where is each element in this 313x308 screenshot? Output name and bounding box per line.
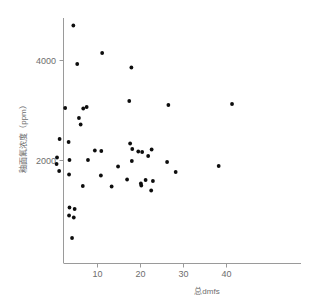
data-point (58, 137, 62, 141)
data-point (99, 149, 103, 153)
x-tick-label-40: 40 (221, 269, 231, 279)
data-point (165, 160, 169, 164)
y-axis-title: 釉面氟浓度（ppm） (18, 101, 28, 173)
x-axis-title: 总dmfs (194, 286, 219, 296)
data-points-group (55, 24, 234, 240)
data-point (100, 51, 104, 55)
data-point (151, 179, 155, 183)
data-point (130, 147, 134, 151)
data-point (79, 123, 83, 127)
y-tick-label-4000: 4000 (36, 56, 56, 66)
data-point (55, 156, 59, 160)
data-point (230, 102, 234, 106)
data-point (149, 189, 153, 193)
data-point (116, 165, 120, 169)
data-point (81, 107, 85, 111)
data-point (70, 236, 74, 240)
data-point (125, 178, 129, 182)
data-point (144, 178, 148, 182)
data-point (85, 105, 89, 109)
data-point (73, 207, 77, 211)
data-point (55, 162, 59, 166)
scatter-plot-figure: 4000 2000 10 20 30 40 总dmfs 釉面氟浓度（ppm） (0, 0, 313, 308)
data-point (128, 142, 132, 146)
data-point (81, 184, 85, 188)
data-point (71, 24, 75, 28)
data-point (130, 66, 134, 70)
data-point (136, 150, 140, 154)
x-tick-label-30: 30 (178, 269, 188, 279)
x-tick-label-10: 10 (92, 269, 102, 279)
x-axis-ticks: 10 20 30 40 (92, 264, 231, 280)
data-point (130, 159, 134, 163)
data-point (67, 173, 71, 177)
data-point (57, 169, 61, 173)
data-point (68, 206, 72, 210)
scatter-plot-canvas: 4000 2000 10 20 30 40 总dmfs 釉面氟浓度（ppm） (0, 0, 313, 308)
data-point (217, 164, 221, 168)
data-point (146, 154, 150, 158)
data-point (75, 62, 79, 66)
data-point (86, 158, 90, 162)
data-point (166, 103, 170, 107)
data-point (67, 140, 71, 144)
data-point (127, 99, 131, 103)
x-tick-label-20: 20 (135, 269, 145, 279)
data-point (67, 214, 71, 218)
data-point (93, 149, 97, 153)
data-point (72, 216, 76, 220)
y-axis-ticks: 4000 2000 (36, 56, 64, 166)
data-point (68, 158, 72, 162)
data-point (140, 150, 144, 154)
data-point (139, 184, 143, 188)
data-point (77, 116, 81, 120)
data-point (63, 106, 67, 110)
data-point (110, 185, 114, 189)
data-point (150, 148, 154, 152)
data-point (99, 174, 103, 178)
y-tick-label-2000: 2000 (36, 156, 56, 166)
data-point (174, 170, 178, 174)
